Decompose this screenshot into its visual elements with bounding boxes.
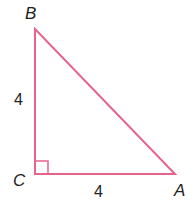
vertex-label-a: A	[173, 181, 185, 200]
side-label-bc: 4	[14, 91, 23, 108]
vertex-label-b: B	[25, 4, 36, 23]
triangle-abc	[35, 29, 175, 174]
triangle-diagram: B C A 4 4	[0, 0, 188, 204]
right-angle-marker	[35, 161, 48, 174]
side-label-ca: 4	[94, 183, 103, 200]
vertex-label-c: C	[13, 171, 26, 190]
